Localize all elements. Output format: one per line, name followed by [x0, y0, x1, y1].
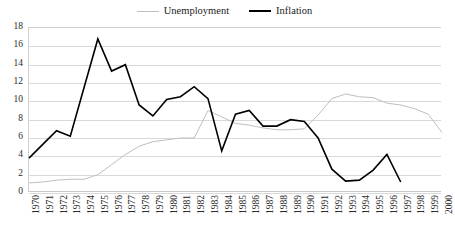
chart-legend: Unemployment Inflation — [0, 2, 449, 20]
series-line-inflation — [29, 39, 401, 182]
x-axis-tick-label: 1981 — [183, 195, 193, 214]
legend-item-inflation: Inflation — [249, 6, 312, 17]
x-axis-tick-label: 1983 — [211, 195, 221, 214]
x-axis-tick-label: 1991 — [321, 195, 331, 214]
y-axis-tick-label: 14 — [14, 59, 24, 69]
x-axis-tick-label: 2000 — [445, 195, 455, 214]
x-axis-tick-label: 1992 — [335, 195, 345, 214]
x-axis-tick-label: 1990 — [307, 195, 317, 214]
y-axis-tick-label: 10 — [14, 96, 24, 106]
plot-area — [28, 27, 441, 192]
series-layer — [29, 28, 442, 193]
x-axis-tick-label: 1989 — [294, 195, 304, 214]
x-axis-tick-label: 1970 — [32, 195, 42, 214]
legend-item-unemployment: Unemployment — [137, 6, 229, 17]
x-axis-tick-label: 1972 — [60, 195, 70, 214]
x-axis-tick-label: 1987 — [266, 195, 276, 214]
x-axis-tick-label: 1995 — [376, 195, 386, 214]
x-axis-tick-label: 1977 — [128, 195, 138, 214]
legend-label-inflation: Inflation — [276, 6, 312, 17]
series-line-unemployment — [29, 94, 442, 183]
y-axis: 024681012141618 — [0, 27, 26, 192]
legend-label-unemployment: Unemployment — [164, 6, 229, 17]
x-axis-tick-label: 1984 — [225, 195, 235, 214]
legend-line-swatch-unemployment-icon — [137, 11, 159, 12]
x-axis-tick-label: 1999 — [431, 195, 441, 214]
x-axis: 1970197119721973197419751976197719781979… — [28, 193, 441, 237]
x-axis-tick-label: 1985 — [239, 195, 249, 214]
x-axis-tick-label: 1998 — [417, 195, 427, 214]
legend-line-swatch-inflation-icon — [249, 10, 271, 12]
y-axis-tick-label: 8 — [18, 114, 23, 124]
x-axis-tick-label: 1997 — [404, 195, 414, 214]
x-axis-tick-label: 1994 — [362, 195, 372, 214]
x-axis-tick-label: 1978 — [142, 195, 152, 214]
y-axis-tick-label: 0 — [18, 187, 23, 197]
x-axis-tick-label: 1993 — [349, 195, 359, 214]
x-axis-tick-label: 1975 — [101, 195, 111, 214]
x-axis-tick-label: 1980 — [170, 195, 180, 214]
y-axis-tick-label: 18 — [14, 22, 24, 32]
y-axis-tick-label: 16 — [14, 41, 24, 51]
x-axis-tick-label: 1971 — [46, 195, 56, 214]
x-axis-tick-label: 1996 — [390, 195, 400, 214]
x-axis-tick-label: 1982 — [197, 195, 207, 214]
x-axis-tick-label: 1979 — [156, 195, 166, 214]
x-axis-tick-label: 1988 — [280, 195, 290, 214]
y-axis-tick-label: 2 — [18, 169, 23, 179]
y-axis-tick-label: 6 — [18, 132, 23, 142]
y-axis-tick-label: 4 — [18, 151, 23, 161]
y-axis-tick-label: 12 — [14, 77, 24, 87]
x-axis-tick-label: 1973 — [73, 195, 83, 214]
x-axis-tick-label: 1976 — [115, 195, 125, 214]
x-axis-tick-label: 1974 — [87, 195, 97, 214]
x-axis-tick-label: 1986 — [252, 195, 262, 214]
